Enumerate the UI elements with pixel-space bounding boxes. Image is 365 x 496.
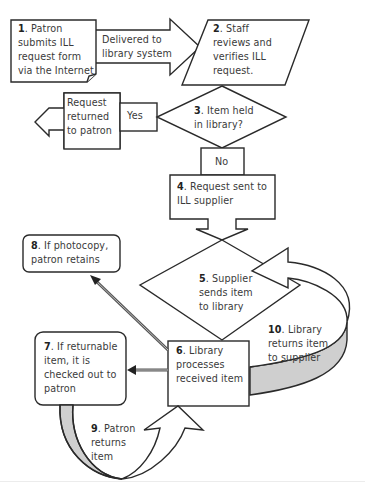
step-5-line-1: Supplier	[212, 273, 252, 284]
request-returned-label: Request returned to patron	[67, 96, 121, 138]
step-2-line-4: request.	[213, 65, 253, 76]
step-1-line-1: Patron	[31, 23, 62, 34]
request-returned-line-1: Request	[67, 97, 107, 108]
bottom-divider	[0, 481, 365, 482]
step-3-line-2: in library?	[194, 119, 243, 130]
step-10-line-3: to supplier	[268, 352, 320, 363]
request-returned-line-3: to patron	[67, 125, 112, 136]
step-1-line-2: submits ILL	[18, 37, 74, 48]
step-2-number: 2	[213, 23, 220, 34]
step-2-line-3: verifies ILL	[213, 51, 266, 62]
step-7-line-2: item, it is	[44, 355, 90, 366]
arrow-6-to-7-head	[127, 365, 136, 375]
step-5-number: 5	[199, 273, 206, 284]
step-7-label: 7. If returnable item, it is checked out…	[44, 340, 128, 396]
step-1-number: 1	[18, 23, 25, 34]
step-2-line-2: reviews and	[213, 37, 272, 48]
step-6-line-1: Library	[189, 345, 223, 356]
step-9-label: 9. Patron returns item	[91, 422, 141, 464]
step-8-label: 8. If photocopy, patron retains	[31, 239, 121, 267]
step-8-number: 8	[31, 240, 38, 251]
step-9-number: 9	[91, 423, 98, 434]
step-9-line-3: item	[91, 451, 113, 462]
step-2-line-1: Staff	[226, 23, 249, 34]
step-4-number: 4	[177, 181, 184, 192]
step-10-line-1: Library	[288, 324, 322, 335]
step-5-label: 5. Supplier sends item to library	[199, 272, 269, 314]
step-6-line-2: processes	[176, 359, 225, 370]
delivered-line-1: Delivered to	[102, 34, 162, 45]
step-6-line-3: received item	[176, 373, 243, 384]
step-7-line-4: patron	[44, 383, 76, 394]
step-9-line-1: Patron	[104, 423, 135, 434]
step-7-line-3: checked out to	[44, 369, 117, 380]
step-5-line-3: to library	[199, 301, 244, 312]
step-6-label: 6. Library processes received item	[176, 344, 250, 386]
step-9-line-2: returns	[91, 437, 126, 448]
step-3-label: 3. Item held in library?	[194, 104, 264, 132]
request-returned-line-2: returned	[67, 111, 109, 122]
step-4-line-1: Request sent to	[190, 181, 267, 192]
step-3-number: 3	[194, 105, 201, 116]
delivered-label: Delivered to library system	[102, 33, 172, 61]
step-8-line-2: patron retains	[31, 254, 100, 265]
step-8-line-1: If photocopy,	[44, 240, 108, 251]
step-1-line-4: via the Internet	[18, 65, 94, 76]
no-label: No	[215, 155, 228, 169]
step-2-label: 2. Staff reviews and verifies ILL reques…	[213, 22, 293, 78]
step-7-line-1: If returnable	[57, 341, 117, 352]
step-6-number: 6	[176, 345, 183, 356]
step-10-label: 10. Library returns item to supplier	[268, 323, 348, 365]
step-4-line-2: ILL supplier	[177, 195, 233, 206]
step-4-label: 4. Request sent to ILL supplier	[177, 180, 273, 208]
step-1-line-3: request form	[18, 51, 81, 62]
step-10-number: 10	[268, 324, 282, 335]
yes-label: Yes	[127, 109, 143, 123]
step-1-label: 1. Patron submits ILL request form via t…	[18, 22, 96, 78]
delivered-line-2: library system	[102, 48, 172, 59]
step-3-line-1: Item held	[207, 105, 254, 116]
step-7-number: 7	[44, 341, 51, 352]
step-10-line-2: returns item	[268, 338, 328, 349]
step-5-line-2: sends item	[199, 287, 253, 298]
